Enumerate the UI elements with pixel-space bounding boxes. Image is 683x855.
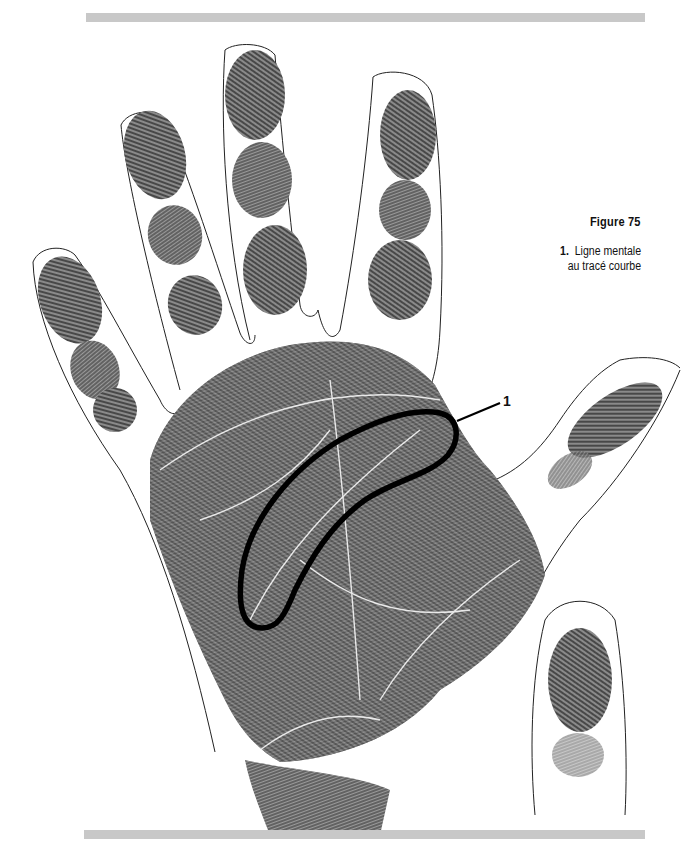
legend-text-line1: Ligne mentale xyxy=(575,244,641,258)
bottom-rule xyxy=(84,830,645,839)
figure-legend-item: 1. Ligne mentale au tracé courbe xyxy=(560,244,641,274)
figure-title: Figure 75 xyxy=(590,214,641,229)
callout-label-1: 1 xyxy=(503,393,511,409)
legend-number: 1. xyxy=(560,244,569,258)
legend-text-line2: au tracé courbe xyxy=(560,259,641,274)
callout-leader-line xyxy=(457,403,500,421)
palm-print-illustration xyxy=(0,0,683,855)
thumb-print xyxy=(548,628,612,732)
